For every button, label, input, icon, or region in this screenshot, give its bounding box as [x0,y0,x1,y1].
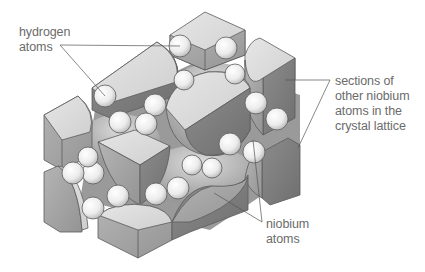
hydrogen-atom [167,177,189,199]
label-line: niobium [266,217,309,232]
label-line: other niobium [335,89,409,104]
label-line: hydrogen [19,25,70,40]
hydrogen-atom [174,70,194,90]
hydrogen-atom [145,183,167,205]
hydrogen-atom [109,111,131,133]
hydrogen-atom [78,147,98,167]
hydrogen-atom [245,92,267,114]
hydrogen-atom [107,185,129,207]
label-sections-of-niobium: sections of other niobium atoms in the c… [335,74,409,134]
niobium-section-bottom-front [98,204,172,258]
label-line: atoms [19,40,70,55]
hydrogen-atom [202,158,222,178]
label-hydrogen-atoms: hydrogen atoms [19,25,70,55]
label-line: atoms in the [335,104,409,119]
label-line: sections of [335,74,409,89]
hydrogen-atom [225,64,245,84]
hydrogen-atom [135,113,157,135]
hydrogen-atom [62,162,84,184]
label-niobium-atoms: niobium atoms [266,217,309,247]
hydrogen-atom [182,155,202,175]
hydrogen-atom [266,108,288,130]
hydrogen-atom [82,197,104,219]
label-line: atoms [266,232,309,247]
hydrogen-atom [219,133,241,155]
label-line: crystal lattice [335,119,409,134]
hydrogen-atom [215,37,237,59]
